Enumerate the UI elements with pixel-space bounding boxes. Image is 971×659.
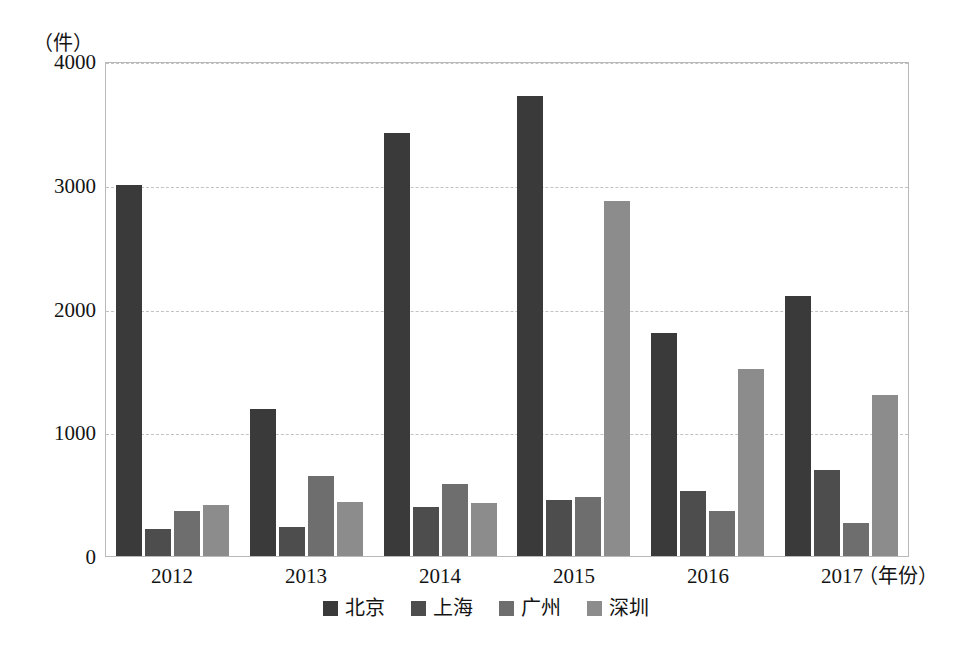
bar — [680, 491, 706, 556]
legend-swatch-icon — [499, 601, 514, 616]
bar-chart: （件） 01000200030004000 201220132014201520… — [0, 0, 971, 659]
bar-group — [507, 63, 641, 556]
legend-label: 广州 — [521, 598, 561, 618]
bar — [413, 507, 439, 557]
bar — [785, 296, 811, 556]
legend-item: 北京 — [323, 598, 385, 618]
legend: 北京上海广州深圳 — [0, 598, 971, 618]
bar-group — [240, 63, 374, 556]
bar-groups — [106, 63, 908, 556]
x-axis-tick-label: 2015 — [507, 562, 641, 592]
y-axis-tick-labels: 01000200030004000 — [10, 62, 96, 557]
legend-label: 上海 — [433, 598, 473, 618]
bar — [308, 476, 334, 556]
bar — [575, 497, 601, 556]
y-axis-tick-label: 2000 — [24, 300, 96, 321]
bar — [174, 511, 200, 556]
bar — [203, 505, 229, 556]
bar — [279, 527, 305, 556]
legend-item: 深圳 — [587, 598, 649, 618]
bar — [546, 500, 572, 556]
bar — [471, 503, 497, 556]
x-axis-tick-label: 2016 — [641, 562, 775, 592]
bar-group — [641, 63, 775, 556]
legend-swatch-icon — [323, 601, 338, 616]
plot-area — [105, 62, 909, 557]
bar — [814, 470, 840, 556]
y-axis-tick-label: 0 — [24, 547, 96, 568]
x-axis-tick-labels: 201220132014201520162017 — [105, 562, 909, 592]
legend-item: 广州 — [499, 598, 561, 618]
y-axis-tick-label: 4000 — [24, 52, 96, 73]
legend-label: 北京 — [345, 598, 385, 618]
bar — [337, 502, 363, 556]
x-axis-unit-label: （年份） — [858, 562, 938, 590]
legend-label: 深圳 — [609, 598, 649, 618]
bar — [145, 529, 171, 556]
x-axis-tick-label: 2012 — [105, 562, 239, 592]
bar — [384, 133, 410, 556]
bar — [604, 201, 630, 556]
bar — [872, 395, 898, 556]
bar — [651, 333, 677, 556]
bar-group — [373, 63, 507, 556]
bar-group — [774, 63, 908, 556]
bar — [738, 369, 764, 556]
x-axis-tick-label: 2013 — [239, 562, 373, 592]
legend-swatch-icon — [411, 601, 426, 616]
bar — [116, 185, 142, 556]
bar-group — [106, 63, 240, 556]
bar — [709, 511, 735, 556]
bar — [843, 523, 869, 556]
legend-swatch-icon — [587, 601, 602, 616]
y-axis-tick-label: 3000 — [24, 176, 96, 197]
x-axis-tick-label: 2014 — [373, 562, 507, 592]
bar — [517, 96, 543, 556]
legend-item: 上海 — [411, 598, 473, 618]
bar — [442, 484, 468, 556]
bar — [250, 409, 276, 556]
y-axis-tick-label: 1000 — [24, 423, 96, 444]
